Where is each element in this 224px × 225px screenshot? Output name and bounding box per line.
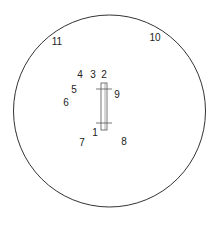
point-label-11: 11 [52,37,62,47]
point-label-6: 6 [63,98,69,108]
point-label-4: 4 [77,70,83,80]
point-label-5: 5 [71,85,77,95]
point-label-3: 3 [90,70,96,80]
point-label-7: 7 [79,138,85,148]
point-label-10: 10 [149,33,160,43]
point-label-9: 9 [114,90,120,100]
outer-circle [14,15,206,207]
point-label-1: 1 [92,128,98,138]
field-diagram: 1 2 3 4 5 6 7 8 9 10 11 [0,0,224,225]
point-label-8: 8 [121,137,127,147]
diagram-canvas [0,0,224,225]
point-label-2: 2 [101,70,107,80]
